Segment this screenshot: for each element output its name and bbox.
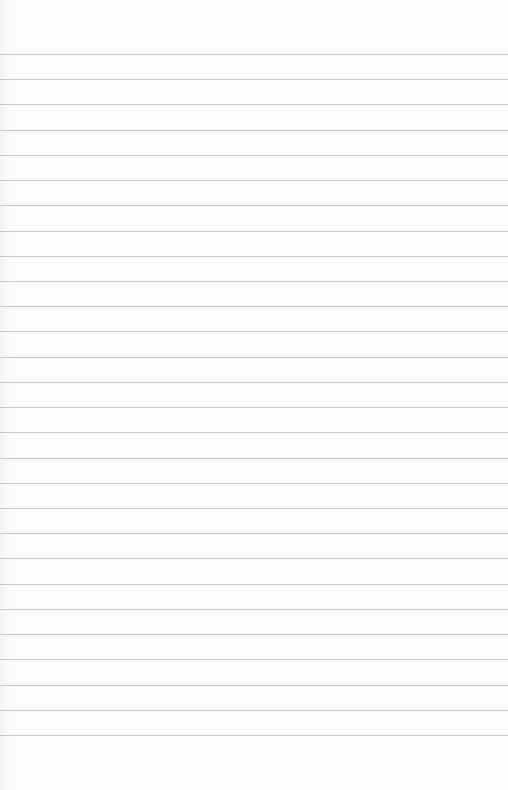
ruled-line	[0, 458, 508, 459]
ruled-line	[0, 382, 508, 383]
ruled-line	[0, 205, 508, 206]
ruled-line	[0, 710, 508, 711]
ruled-line	[0, 130, 508, 131]
ruled-line	[0, 483, 508, 484]
ruled-line	[0, 104, 508, 105]
ruled-line	[0, 407, 508, 408]
ruled-line	[0, 231, 508, 232]
ruled-line	[0, 609, 508, 610]
ruled-line	[0, 155, 508, 156]
ruled-line	[0, 331, 508, 332]
ruled-line	[0, 634, 508, 635]
ruled-line	[0, 54, 508, 55]
ruled-line	[0, 432, 508, 433]
ruled-line	[0, 685, 508, 686]
lined-paper-sheet	[0, 0, 508, 790]
ruled-line	[0, 180, 508, 181]
ruled-line	[0, 357, 508, 358]
ruled-line	[0, 735, 508, 736]
ruled-line	[0, 508, 508, 509]
ruled-line	[0, 281, 508, 282]
ruled-line	[0, 659, 508, 660]
ruled-line	[0, 306, 508, 307]
ruled-line	[0, 558, 508, 559]
ruled-line	[0, 533, 508, 534]
ruled-line	[0, 79, 508, 80]
ruled-line	[0, 584, 508, 585]
ruled-line	[0, 256, 508, 257]
